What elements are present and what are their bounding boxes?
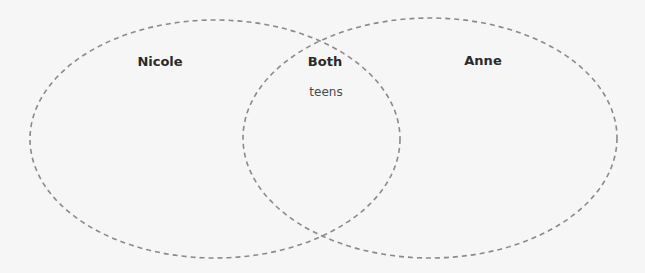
intersection-label: Both xyxy=(308,54,342,69)
venn-diagram xyxy=(0,0,645,273)
set-label-nicole: Nicole xyxy=(137,54,182,69)
set-circle-anne xyxy=(243,18,617,258)
set-label-anne: Anne xyxy=(464,53,501,68)
intersection-item: teens xyxy=(309,85,342,99)
set-circle-nicole xyxy=(30,20,400,258)
